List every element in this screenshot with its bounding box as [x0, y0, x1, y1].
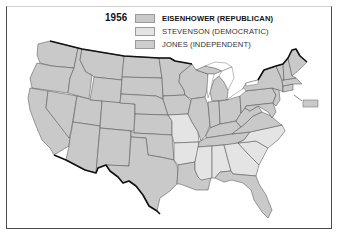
legend-item-stevenson: STEVENSON (DEMOCRATIC)	[135, 26, 269, 37]
legend-label-jones: JONES (INDEPENDENT)	[162, 40, 251, 49]
state-wyoming	[90, 77, 122, 103]
state-mississippi	[195, 146, 212, 180]
state-utah	[73, 96, 102, 126]
state-north-dakota	[122, 56, 162, 78]
state-colorado	[100, 101, 135, 131]
state-new-york	[242, 66, 283, 92]
legend-label-eisenhower: EISENHOWER (REPUBLICAN)	[162, 14, 273, 23]
legend-item-jones: JONES (INDEPENDENT)	[135, 39, 251, 50]
legend-swatch-democratic	[135, 27, 155, 36]
state-kansas	[134, 114, 172, 135]
legend-label-stevenson: STEVENSON (DEMOCRATIC)	[162, 27, 269, 36]
small-states-inset	[303, 100, 318, 107]
inset-pointer	[294, 95, 302, 101]
state-iowa	[163, 95, 191, 115]
state-indiana	[208, 101, 220, 128]
state-oregon	[30, 63, 74, 93]
election-year-title: 1956	[105, 11, 127, 23]
state-florida	[215, 171, 272, 218]
legend-item-eisenhower: EISENHOWER (REPUBLICAN)	[135, 13, 273, 24]
legend-swatch-republican	[135, 14, 155, 23]
legend-swatch-independent	[135, 40, 155, 49]
